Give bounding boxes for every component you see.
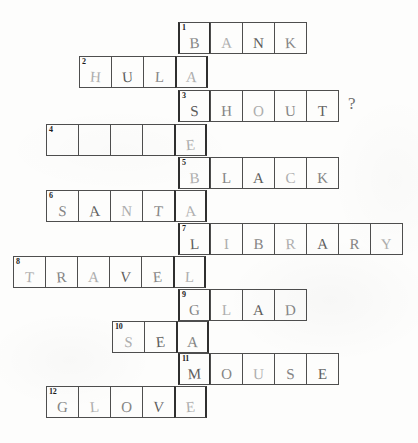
clue-number: 4 [49,125,53,134]
crossword-cell-5-3[interactable]: A [242,157,275,189]
answer-letter: G [180,302,210,318]
clue-number: 10 [115,322,123,331]
crossword-cell-7-2[interactable]: I [210,223,243,255]
crossword-key-cell-8[interactable]: L [173,256,206,288]
answer-letter: U [275,103,307,120]
crossword-cell-7-4[interactable]: R [274,223,307,255]
crossword-cell-7-3[interactable]: B [242,223,275,255]
crossword-cell-2-2[interactable]: U [111,56,144,88]
answer-letter: R [275,236,307,253]
answer-letter: H [80,69,112,86]
answer-letter: E [307,367,338,383]
answer-letter: C [275,170,307,187]
crossword-cell-7-7[interactable]: Y [370,223,403,255]
crossword-cell-7-5[interactable]: A [306,223,339,255]
clue-number: 5 [182,158,186,167]
crossword-cell-1-2[interactable]: A [210,22,243,54]
crossword-cell-9-4[interactable]: D [274,289,307,321]
crossword-key-cell-3[interactable]: 3S [178,90,211,122]
crossword-cell-12-1[interactable]: 12G [46,386,79,418]
crossword-cell-11-3[interactable]: U [242,353,275,385]
crossword-cell-6-2[interactable]: A [78,190,111,222]
crossword-cell-8-1[interactable]: 8T [13,256,46,288]
crossword-cell-9-2[interactable]: L [210,289,243,321]
answer-letter [47,152,78,154]
crossword-cell-12-2[interactable]: L [78,386,111,418]
answer-letter: E [144,334,176,351]
crossword-cell-11-5[interactable]: E [306,353,339,385]
answer-letter [79,152,110,154]
crossword-row-10: 10SEA [112,321,209,353]
crossword-cell-8-3[interactable]: A [77,256,110,288]
crossword-cell-5-4[interactable]: C [274,157,307,189]
answer-letter: O [111,399,143,415]
crossword-cell-11-2[interactable]: O [210,353,243,385]
crossword-cell-1-3[interactable]: N [242,22,275,54]
crossword-key-cell-7[interactable]: 7L [178,223,211,255]
crossword-key-cell-6[interactable]: A [174,190,207,222]
answer-letter: A [243,171,274,186]
crossword-cell-8-2[interactable]: R [45,256,78,288]
crossword-row-2: 2HULA [79,56,208,88]
crossword-cell-4-4[interactable] [142,124,175,156]
crossword-row-12: 12GLOVE [46,386,207,418]
crossword-cell-1-4[interactable]: K [274,22,307,54]
crossword-row-3: 3SHOUT? [178,90,339,122]
crossword-cell-4-2[interactable] [78,124,111,156]
clue-number: 1 [182,23,186,32]
crossword-cell-8-4[interactable]: V [109,256,142,288]
answer-letter: U [111,69,143,86]
crossword-key-cell-11[interactable]: 11M [178,353,211,385]
crossword-cell-5-5[interactable]: K [306,157,339,189]
crossword-key-cell-4[interactable]: E [174,124,207,156]
answer-letter: A [211,36,242,52]
answer-letter: A [175,203,205,220]
answer-letter: S [47,203,79,220]
answer-letter: A [177,69,207,86]
crossword-cell-9-3[interactable]: A [242,289,275,321]
answer-letter: L [144,69,176,85]
crossword-cell-3-5[interactable]: T [306,90,339,122]
answer-letter: O [211,367,242,383]
crossword-key-cell-1[interactable]: 1B [178,22,211,54]
answer-letter: Y [371,236,403,253]
answer-letter [143,152,174,154]
crossword-cell-5-2[interactable]: L [210,157,243,189]
crossword-cell-3-3[interactable]: O [242,90,275,122]
crossword-key-cell-5[interactable]: 5B [178,157,211,189]
answer-letter: A [178,334,208,350]
answer-letter: A [78,203,110,220]
answer-letter: L [78,399,110,416]
crossword-cell-11-4[interactable]: S [274,353,307,385]
crossword-cell-2-1[interactable]: 2H [79,56,112,88]
crossword-cell-6-3[interactable]: N [110,190,143,222]
answer-letter: E [175,399,205,416]
crossword-cell-6-1[interactable]: 6S [46,190,79,222]
crossword-key-cell-12[interactable]: E [174,386,207,418]
crossword-key-cell-9[interactable]: 9G [178,289,211,321]
crossword-cell-2-3[interactable]: L [143,56,176,88]
crossword-cell-4-1[interactable]: 4 [46,124,79,156]
answer-letter: O [243,104,274,119]
clue-number: 2 [82,57,86,66]
clue-number: 11 [182,354,189,363]
crossword-cell-3-2[interactable]: H [210,90,243,122]
answer-letter: L [211,303,242,319]
crossword-cell-4-3[interactable] [110,124,143,156]
clue-number: 9 [182,290,186,299]
answer-letter: R [45,269,77,286]
answer-letter: H [211,104,242,120]
crossword-cell-12-3[interactable]: O [110,386,143,418]
crossword-cell-10-2[interactable]: E [144,321,177,353]
crossword-cell-3-4[interactable]: U [274,90,307,122]
crossword-cell-10-1[interactable]: 10S [112,321,145,353]
crossword-cell-12-4[interactable]: V [142,386,175,418]
crossword-cell-7-6[interactable]: R [338,223,371,255]
answer-letter: T [143,203,175,220]
crossword-key-cell-2[interactable]: A [175,56,208,88]
answer-letter: E [175,137,205,154]
crossword-cell-8-5[interactable]: E [141,256,174,288]
answer-letter: K [307,171,338,187]
crossword-cell-6-4[interactable]: T [142,190,175,222]
crossword-key-cell-10[interactable]: A [176,321,209,353]
